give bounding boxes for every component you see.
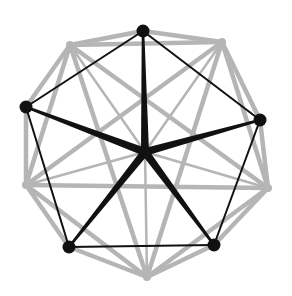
secondary-edge: [26, 185, 147, 277]
primary-ring-edge: [69, 245, 214, 247]
primary-node: [63, 241, 76, 254]
graph-diagram: [0, 0, 292, 296]
secondary-node: [264, 184, 272, 192]
primary-node: [137, 25, 150, 38]
secondary-edge: [214, 188, 268, 245]
secondary-edge: [26, 185, 268, 188]
primary-node: [20, 101, 33, 114]
primary-ring-edge: [26, 107, 69, 247]
secondary-edge: [26, 45, 70, 107]
center-hub-node: [141, 148, 149, 156]
primary-spoke: [142, 150, 215, 246]
primary-node: [208, 239, 221, 252]
secondary-edge: [69, 247, 147, 277]
primary-node: [254, 114, 267, 127]
secondary-node: [66, 41, 74, 49]
primary-spoke: [144, 119, 260, 156]
secondary-node: [218, 38, 226, 46]
primary-spoke: [141, 31, 149, 152]
secondary-edge: [26, 185, 69, 247]
secondary-edge: [147, 188, 268, 277]
secondary-spoke: [145, 152, 147, 277]
secondary-spoke: [145, 152, 268, 188]
secondary-node: [143, 273, 151, 281]
secondary-node: [22, 181, 30, 189]
